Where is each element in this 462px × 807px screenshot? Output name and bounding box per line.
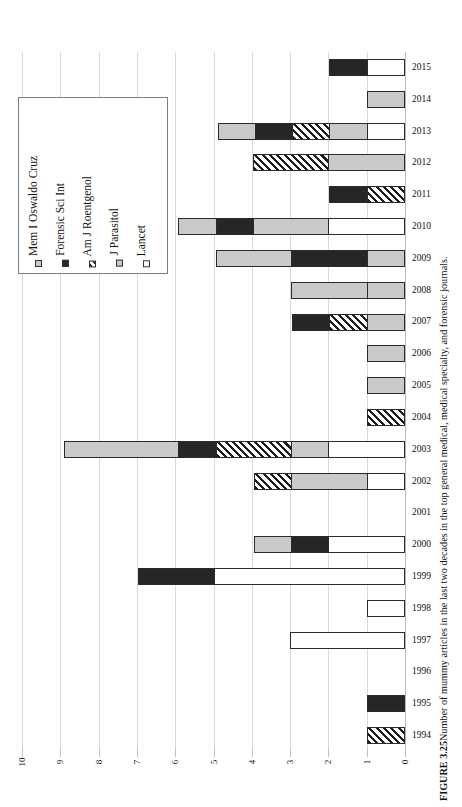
legend-item-jparasitol[interactable]: J Parasitol (109, 208, 123, 267)
bar-segment-mem[interactable] (291, 282, 368, 299)
bar-segment-lancet[interactable] (367, 123, 405, 140)
x-tick-label: 1 (362, 755, 372, 769)
bar-segment-mem[interactable] (216, 250, 293, 267)
legend-swatch-light-gray-square (116, 260, 123, 267)
bar-segment-mem[interactable] (218, 123, 256, 140)
bar-segment-mem[interactable] (367, 91, 405, 108)
bar-segment-jparasitol[interactable] (367, 345, 405, 362)
bar-segment-amjr[interactable] (216, 441, 293, 458)
chart-row (22, 307, 405, 339)
stacked-bar[interactable] (290, 314, 405, 331)
legend-item-mem[interactable]: Mem I Oswaldo Cruz (28, 156, 42, 267)
bar-segment-jparasitol[interactable] (328, 154, 405, 171)
chart-row (22, 657, 405, 689)
bar-segment-forensic[interactable] (138, 568, 215, 585)
legend-item-amjr[interactable]: Am J Roentgenol (82, 176, 96, 268)
stacked-bar[interactable] (214, 250, 406, 267)
x-tick-label: 0 (400, 755, 410, 769)
bar-segment-amjr[interactable] (367, 409, 405, 426)
legend-label: Lancet (136, 225, 148, 256)
bar-segment-lancet[interactable] (290, 632, 405, 649)
stacked-bar[interactable] (367, 345, 405, 362)
stacked-bar[interactable] (137, 568, 405, 585)
bar-segment-amjr[interactable] (254, 473, 292, 490)
stacked-bar[interactable] (252, 154, 405, 171)
bar-segment-lancet[interactable] (367, 59, 405, 76)
chart-legend: Mem I Oswaldo CruzForensic Sci IntAm J R… (18, 97, 168, 274)
legend-item-forensic[interactable]: Forensic Sci Int (55, 183, 69, 267)
year-label: 2011 (412, 190, 456, 200)
bar-segment-jparasitol[interactable] (291, 441, 329, 458)
bar-segment-forensic[interactable] (255, 123, 293, 140)
bar-segment-jparasitol[interactable] (253, 218, 330, 235)
x-tick-label: 3 (285, 755, 295, 769)
bar-segment-forensic[interactable] (329, 59, 367, 76)
x-tick-label: 2 (323, 755, 333, 769)
bar-segment-forensic[interactable] (216, 218, 254, 235)
stacked-bar[interactable] (367, 409, 405, 426)
stacked-bar[interactable] (328, 186, 405, 203)
bar-segment-forensic[interactable] (329, 186, 367, 203)
x-tick-label: 7 (132, 755, 142, 769)
bar-segment-jparasitol[interactable] (367, 250, 405, 267)
bar-segment-forensic[interactable] (291, 536, 329, 553)
year-label: 2001 (412, 508, 456, 518)
legend-swatch-white-square (143, 260, 150, 267)
legend-label: Am J Roentgenol (82, 176, 94, 257)
x-tick-label: 5 (209, 755, 219, 769)
bar-segment-jparasitol[interactable] (329, 123, 367, 140)
chart-row (22, 688, 405, 720)
bar-segment-amjr[interactable] (329, 314, 367, 331)
bar-segment-forensic[interactable] (291, 250, 368, 267)
year-label: 2003 (412, 445, 456, 455)
bar-segment-lancet[interactable] (328, 536, 405, 553)
bar-segment-amjr[interactable] (292, 123, 330, 140)
bar-segment-jparasitol[interactable] (367, 377, 405, 394)
stacked-bar[interactable] (328, 59, 405, 76)
bar-segment-forensic[interactable] (178, 441, 216, 458)
bar-segment-lancet[interactable] (328, 218, 405, 235)
stacked-bar[interactable] (367, 377, 405, 394)
stacked-bar[interactable] (252, 536, 405, 553)
stacked-bar[interactable] (214, 123, 406, 140)
bar-segment-jparasitol[interactable] (291, 473, 368, 490)
x-tick-label: 10 (17, 755, 27, 769)
stacked-bar[interactable] (367, 695, 405, 712)
x-tick-label: 8 (94, 755, 104, 769)
stacked-bar[interactable] (367, 727, 405, 744)
bar-segment-jparasitol[interactable] (367, 314, 405, 331)
bar-segment-amjr[interactable] (367, 727, 405, 744)
year-label: 2006 (412, 349, 456, 359)
bar-segment-mem[interactable] (64, 441, 179, 458)
year-label: 2008 (412, 286, 456, 296)
legend-swatch-black-square (62, 260, 69, 267)
year-label: 1996 (412, 667, 456, 677)
year-label: 1998 (412, 604, 456, 614)
bar-segment-forensic[interactable] (367, 695, 405, 712)
stacked-bar[interactable] (367, 91, 405, 108)
figure-3-25: Mem I Oswaldo CruzForensic Sci IntAm J R… (0, 0, 462, 807)
bar-segment-amjr[interactable] (367, 186, 405, 203)
bar-segment-lancet[interactable] (328, 441, 405, 458)
legend-item-lancet[interactable]: Lancet (136, 225, 150, 267)
legend-label: J Parasitol (109, 208, 121, 256)
stacked-bar[interactable] (290, 282, 405, 299)
bar-segment-lancet[interactable] (367, 473, 405, 490)
chart-row (22, 529, 405, 561)
chart-row (22, 593, 405, 625)
legend-label: Forensic Sci Int (55, 183, 67, 256)
stacked-bar[interactable] (175, 218, 405, 235)
bar-segment-mem[interactable] (254, 536, 292, 553)
bar-segment-mem[interactable] (178, 218, 216, 235)
stacked-bar[interactable] (367, 600, 405, 617)
bar-segment-amjr[interactable] (253, 154, 330, 171)
legend-swatch-hatched-square (89, 260, 96, 267)
bar-segment-forensic[interactable] (292, 314, 330, 331)
stacked-bar[interactable] (290, 632, 405, 649)
stacked-bar[interactable] (60, 441, 405, 458)
bar-segment-jparasitol[interactable] (367, 282, 405, 299)
bar-segment-lancet[interactable] (367, 600, 405, 617)
stacked-bar[interactable] (252, 473, 405, 490)
bar-segment-lancet[interactable] (214, 568, 406, 585)
year-label: 2005 (412, 381, 456, 391)
